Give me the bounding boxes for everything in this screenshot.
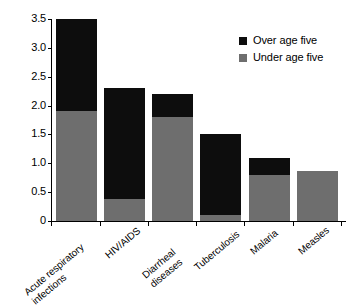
x-tick-mark	[293, 222, 294, 226]
x-tick-mark	[196, 222, 197, 226]
bar-segment-over-age-five	[200, 134, 241, 215]
bar-segment-under-age-five	[200, 215, 241, 221]
x-tick-mark	[341, 222, 342, 226]
legend-swatch-icon	[239, 37, 247, 45]
bar-segment-under-age-five	[56, 111, 97, 221]
legend-swatch-icon	[239, 54, 247, 62]
legend-label: Under age five	[253, 52, 323, 63]
legend-label: Over age five	[253, 35, 317, 46]
bar	[297, 171, 338, 221]
bar-segment-over-age-five	[152, 94, 193, 117]
bar-segment-over-age-five	[104, 88, 145, 199]
bar-segment-under-age-five	[249, 175, 290, 221]
bar	[200, 134, 241, 221]
x-tick-mark	[100, 222, 101, 226]
bar	[56, 19, 97, 221]
x-tick-mark	[51, 222, 52, 226]
legend-item: Over age five	[239, 33, 323, 48]
x-tick-mark	[244, 222, 245, 226]
legend-item: Under age five	[239, 50, 323, 65]
bar-segment-under-age-five	[297, 171, 338, 221]
bar	[249, 158, 290, 221]
chart-legend: Over age fiveUnder age five	[239, 33, 323, 67]
bar-segment-under-age-five	[104, 199, 145, 221]
bar-segment-over-age-five	[56, 19, 97, 111]
x-tick-mark	[148, 222, 149, 226]
bar-segment-under-age-five	[152, 117, 193, 221]
bar	[152, 94, 193, 221]
bar-segment-over-age-five	[249, 158, 290, 175]
bar	[104, 88, 145, 221]
